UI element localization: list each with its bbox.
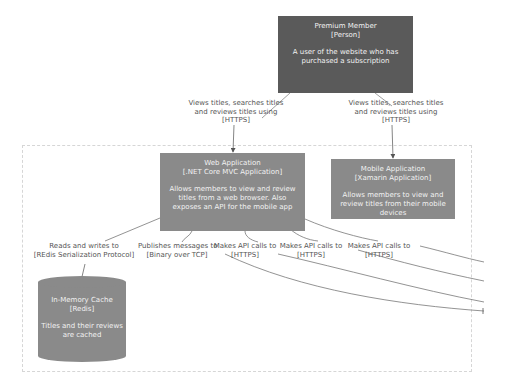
relation-text: Makes API calls to	[346, 242, 412, 251]
relation-technology: [REdis Serialization Protocol]	[28, 251, 140, 260]
web-app-type: [.NET Core MVC Application]	[160, 168, 305, 177]
relation-label-publishes: Publishes messages to [Binary over TCP]	[138, 242, 216, 259]
database-in-memory-cache: In-Memory Cache [Redis] Titles and their…	[38, 276, 126, 368]
relation-label-web-cache: Reads and writes to [REdis Serialization…	[28, 242, 140, 259]
person-type: [Person]	[278, 31, 413, 40]
relation-label-api-3: Makes API calls to [HTTPS]	[346, 242, 412, 259]
relation-technology: [Binary over TCP]	[138, 251, 216, 260]
person-description: A user of the website who has purchased …	[278, 48, 413, 66]
cache-type: [Redis]	[38, 305, 126, 314]
container-web-application: Web Application [.NET Core MVC Applicati…	[160, 153, 305, 231]
relation-label-api-2: Makes API calls to [HTTPS]	[278, 242, 344, 259]
person-name: Premium Member	[278, 22, 413, 31]
relation-label-person-mobile: Views titles, searches titles and review…	[340, 99, 452, 125]
web-app-description: Allows members to view and review titles…	[160, 185, 305, 212]
relation-technology: [HTTPS]	[212, 251, 278, 260]
cache-description: Titles and their reviews are cached	[38, 322, 126, 340]
web-app-name: Web Application	[160, 159, 305, 168]
relation-technology: [HTTPS]	[180, 116, 292, 125]
relation-text: and reviews titles using	[340, 108, 452, 117]
relation-text: Makes API calls to	[212, 242, 278, 251]
relation-text: and reviews titles using	[180, 108, 292, 117]
mobile-app-description: Allows members to view and review titles…	[331, 191, 455, 218]
container-mobile-application: Mobile Application [Xamarin Application]…	[331, 159, 455, 219]
relation-text: Views titles, searches titles	[340, 99, 452, 108]
relation-text: Makes API calls to	[278, 242, 344, 251]
relation-technology: [HTTPS]	[346, 251, 412, 260]
relation-text: Views titles, searches titles	[180, 99, 292, 108]
relation-label-api-1: Makes API calls to [HTTPS]	[212, 242, 278, 259]
mobile-app-type: [Xamarin Application]	[331, 174, 455, 183]
cache-name: In-Memory Cache	[38, 296, 126, 305]
relation-label-person-web: Views titles, searches titles and review…	[180, 99, 292, 125]
relation-technology: [HTTPS]	[340, 116, 452, 125]
relation-text: Publishes messages to	[138, 242, 216, 251]
cylinder-top	[38, 276, 126, 288]
relation-technology: [HTTPS]	[278, 251, 344, 260]
person-premium-member: Premium Member [Person] A user of the we…	[278, 16, 413, 93]
mobile-app-name: Mobile Application	[331, 165, 455, 174]
relation-text: Reads and writes to	[28, 242, 140, 251]
